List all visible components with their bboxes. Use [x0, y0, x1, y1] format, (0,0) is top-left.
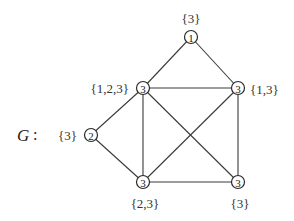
- graph-name: G: [17, 126, 29, 145]
- label-upper-left: {1,2,3}: [91, 81, 129, 96]
- node-labels: {3} {1,2,3} {1,3} {3} {2,3} {3}: [58, 11, 279, 211]
- graph-diagram: 1 3 3 2 3 3 {3} {1,2,3} {1,3} {3} {2,3} …: [0, 0, 294, 221]
- node-bottom-right: 3: [232, 176, 245, 189]
- node-left: 2: [85, 129, 98, 142]
- node-top-value: 1: [188, 32, 194, 44]
- node-bottom-left-value: 3: [140, 177, 146, 189]
- label-bottom-right: {3}: [231, 196, 250, 211]
- graph-title: G :: [17, 126, 37, 145]
- node-top: 1: [185, 31, 198, 44]
- node-left-value: 2: [88, 130, 94, 142]
- node-upper-left: 3: [137, 82, 150, 95]
- edge-top-upper-left: [143, 37, 191, 88]
- label-left: {3}: [58, 128, 77, 143]
- node-upper-right: 3: [232, 82, 245, 95]
- label-upper-right: {1,3}: [250, 82, 279, 97]
- node-upper-left-value: 3: [140, 83, 146, 95]
- label-bottom-left: {2,3}: [131, 196, 160, 211]
- node-bottom-left: 3: [137, 176, 150, 189]
- edge-left-bottom-left: [91, 135, 143, 182]
- label-top: {3}: [182, 11, 201, 26]
- edge-top-upper-right: [191, 37, 238, 88]
- edges: [91, 37, 238, 182]
- graph-separator: :: [33, 126, 37, 143]
- node-bottom-right-value: 3: [235, 177, 241, 189]
- node-upper-right-value: 3: [235, 83, 241, 95]
